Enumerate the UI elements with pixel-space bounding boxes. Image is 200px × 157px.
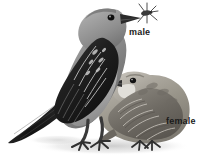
bird-illustration-figure: male female xyxy=(0,0,200,157)
illustration-canvas xyxy=(0,0,200,157)
label-female: female xyxy=(166,117,196,126)
female-eye xyxy=(130,78,136,83)
female-eye-highlight xyxy=(131,79,133,81)
male-eye-highlight xyxy=(109,16,111,18)
male-eye xyxy=(108,15,115,21)
label-male: male xyxy=(129,28,150,37)
